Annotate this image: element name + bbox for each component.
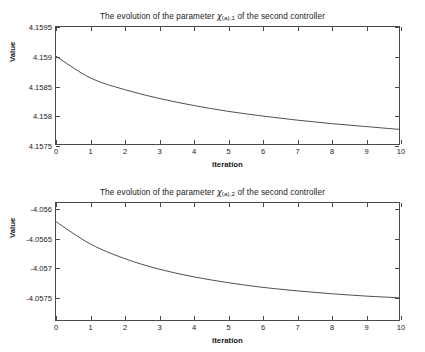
y-tick-label-0: 4.1575 — [29, 142, 52, 151]
x-tick-label-5: 5 — [226, 323, 230, 332]
x-tick-top-8 — [332, 27, 333, 31]
x-tick-label-2: 2 — [123, 147, 127, 156]
x-tick-label-6: 6 — [261, 147, 265, 156]
y-tick-left-0 — [56, 298, 60, 299]
data-curve-bottom — [56, 203, 399, 320]
chart-title-bottom-pre: The evolution of the parameter — [100, 188, 217, 197]
plot-area-top: 0123456789104.15754.1584.15854.1594.1595 — [55, 26, 400, 145]
x-tick-label-8: 8 — [330, 323, 334, 332]
x-tick-top-1 — [91, 203, 92, 207]
x-tick-label-1: 1 — [88, 147, 92, 156]
y-tick-right-2 — [395, 239, 399, 240]
x-tick-bottom-7 — [298, 140, 299, 144]
chart-title-top-pre: The evolution of the parameter — [100, 12, 217, 21]
x-tick-bottom-10 — [401, 316, 402, 320]
x-tick-label-10: 10 — [397, 147, 405, 156]
x-tick-bottom-6 — [263, 140, 264, 144]
y-tick-label-4: 4.1595 — [29, 23, 52, 32]
x-tick-bottom-7 — [298, 316, 299, 320]
x-tick-top-4 — [194, 27, 195, 31]
y-tick-label-1: 4.158 — [33, 112, 52, 121]
x-tick-label-7: 7 — [295, 323, 299, 332]
y-tick-right-3 — [395, 209, 399, 210]
y-tick-left-3 — [56, 57, 60, 58]
x-tick-label-6: 6 — [261, 323, 265, 332]
y-tick-right-0 — [395, 146, 399, 147]
x-tick-bottom-8 — [332, 140, 333, 144]
y-tick-label-2: -4.0565 — [26, 234, 52, 243]
x-tick-label-9: 9 — [364, 147, 368, 156]
x-tick-top-3 — [160, 27, 161, 31]
x-tick-top-6 — [263, 203, 264, 207]
y-tick-label-3: 4.159 — [33, 52, 52, 61]
y-tick-right-0 — [395, 298, 399, 299]
y-tick-left-2 — [56, 239, 60, 240]
x-axis-label-top: Iteration — [55, 160, 400, 169]
x-tick-top-9 — [367, 203, 368, 207]
data-curve-top — [56, 27, 399, 144]
chart-title-bottom: The evolution of the parameter χ(a),2 of… — [0, 187, 425, 197]
chart-title-top-subscript: (a),1 — [222, 14, 235, 21]
x-tick-bottom-5 — [229, 316, 230, 320]
x-tick-label-10: 10 — [397, 323, 405, 332]
y-axis-label-bottom: Value — [8, 218, 17, 238]
chart-panel-bottom: The evolution of the parameter χ(a),2 of… — [0, 176, 425, 352]
x-tick-bottom-9 — [367, 316, 368, 320]
x-tick-bottom-8 — [332, 316, 333, 320]
x-tick-bottom-2 — [125, 316, 126, 320]
y-tick-right-3 — [395, 57, 399, 58]
x-tick-top-4 — [194, 203, 195, 207]
x-tick-top-7 — [298, 27, 299, 31]
y-tick-right-1 — [395, 116, 399, 117]
x-tick-top-10 — [401, 203, 402, 207]
y-tick-left-2 — [56, 87, 60, 88]
x-tick-bottom-1 — [91, 140, 92, 144]
y-tick-label-1: -4.057 — [30, 264, 52, 273]
x-tick-top-2 — [125, 203, 126, 207]
y-tick-left-1 — [56, 268, 60, 269]
y-tick-right-2 — [395, 87, 399, 88]
x-tick-label-4: 4 — [192, 147, 196, 156]
x-tick-label-1: 1 — [88, 323, 92, 332]
chart-title-top: The evolution of the parameter χ(a),1 of… — [0, 11, 425, 21]
y-tick-left-0 — [56, 146, 60, 147]
x-tick-top-9 — [367, 27, 368, 31]
y-tick-label-3: -4.056 — [30, 204, 52, 213]
y-tick-left-3 — [56, 209, 60, 210]
y-tick-label-2: 4.1585 — [29, 82, 52, 91]
x-tick-label-7: 7 — [295, 147, 299, 156]
x-tick-top-2 — [125, 27, 126, 31]
x-tick-label-9: 9 — [364, 323, 368, 332]
y-tick-left-1 — [56, 116, 60, 117]
x-tick-bottom-0 — [56, 316, 57, 320]
x-tick-label-2: 2 — [123, 323, 127, 332]
y-tick-label-0: -4.0575 — [26, 294, 52, 303]
x-tick-top-6 — [263, 27, 264, 31]
x-tick-label-3: 3 — [157, 147, 161, 156]
x-tick-top-7 — [298, 203, 299, 207]
x-tick-top-1 — [91, 27, 92, 31]
x-tick-top-5 — [229, 203, 230, 207]
x-tick-bottom-3 — [160, 316, 161, 320]
x-tick-bottom-1 — [91, 316, 92, 320]
x-tick-top-8 — [332, 203, 333, 207]
chart-panel-top: The evolution of the parameter χ(a),1 of… — [0, 0, 425, 176]
x-axis-label-bottom: Iteration — [55, 336, 400, 345]
x-tick-bottom-9 — [367, 140, 368, 144]
y-tick-left-4 — [56, 27, 60, 28]
x-tick-top-0 — [56, 203, 57, 207]
plot-area-bottom: 012345678910-4.0575-4.057-4.0565-4.056 — [55, 202, 400, 321]
x-tick-bottom-3 — [160, 140, 161, 144]
x-tick-label-0: 0 — [54, 323, 58, 332]
x-tick-label-4: 4 — [192, 323, 196, 332]
x-tick-top-3 — [160, 203, 161, 207]
x-tick-top-5 — [229, 27, 230, 31]
x-tick-bottom-4 — [194, 316, 195, 320]
figure-canvas: The evolution of the parameter χ(a),1 of… — [0, 0, 425, 352]
x-tick-bottom-5 — [229, 140, 230, 144]
x-tick-bottom-2 — [125, 140, 126, 144]
x-tick-label-3: 3 — [157, 323, 161, 332]
x-tick-bottom-4 — [194, 140, 195, 144]
y-tick-right-1 — [395, 268, 399, 269]
x-tick-top-10 — [401, 27, 402, 31]
